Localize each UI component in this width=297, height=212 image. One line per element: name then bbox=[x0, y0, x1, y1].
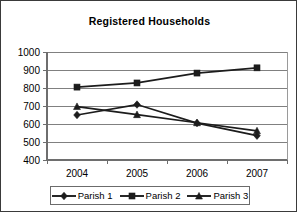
y-axis-tick-label: 600 bbox=[23, 119, 40, 130]
series-line bbox=[77, 68, 257, 87]
diamond-marker-icon bbox=[52, 190, 76, 202]
chart-series bbox=[74, 65, 260, 90]
legend-item-label: Parish 2 bbox=[146, 191, 181, 201]
legend-item-label: Parish 3 bbox=[213, 191, 248, 201]
legend-item-label: Parish 1 bbox=[78, 191, 113, 201]
data-point-marker bbox=[74, 111, 81, 119]
x-axis-tick-label: 2005 bbox=[126, 168, 149, 179]
data-point-marker bbox=[134, 101, 141, 109]
series-line bbox=[77, 105, 257, 136]
data-point-marker bbox=[129, 193, 135, 199]
chart-legend: Parish 1Parish 2Parish 3 bbox=[50, 186, 250, 205]
square-marker-icon bbox=[120, 190, 144, 202]
legend-item-parish-1[interactable]: Parish 1 bbox=[52, 190, 113, 202]
legend-item-parish-2[interactable]: Parish 2 bbox=[120, 190, 181, 202]
x-axis-tick-label: 2007 bbox=[246, 168, 269, 179]
series-line bbox=[77, 107, 257, 131]
chart-plot-area: 10009008007006005004002004200520062007 bbox=[1, 1, 297, 212]
data-point-marker bbox=[254, 65, 260, 71]
chart-container: Registered Households 100090080070060050… bbox=[0, 0, 297, 212]
x-axis-tick-label: 2006 bbox=[186, 168, 209, 179]
x-axis-tick-label: 2004 bbox=[66, 168, 89, 179]
y-axis-tick-label: 800 bbox=[23, 83, 40, 94]
data-point-marker bbox=[134, 80, 140, 86]
chart-series bbox=[74, 101, 261, 140]
data-point-marker bbox=[194, 70, 200, 76]
data-point-marker bbox=[74, 84, 80, 90]
y-axis-tick-label: 1000 bbox=[18, 47, 41, 58]
triangle-marker-icon bbox=[187, 190, 211, 202]
y-axis-tick-label: 400 bbox=[23, 155, 40, 166]
y-axis-tick-label: 700 bbox=[23, 101, 40, 112]
chart-series bbox=[74, 103, 261, 134]
data-point-marker bbox=[60, 192, 67, 200]
y-axis-tick-label: 900 bbox=[23, 65, 40, 76]
legend-item-parish-3[interactable]: Parish 3 bbox=[187, 190, 248, 202]
y-axis-tick-label: 500 bbox=[23, 137, 40, 148]
